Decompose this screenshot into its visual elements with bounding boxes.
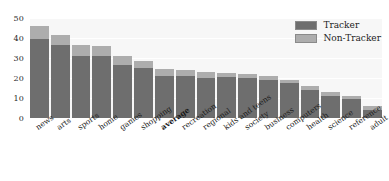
legend-label: Tracker — [323, 20, 359, 30]
bar-segment-non-tracker — [113, 56, 132, 65]
bar-arts[interactable] — [51, 18, 70, 118]
bar-stack — [134, 18, 153, 118]
y-axis-tick-label: 30 — [13, 54, 24, 63]
legend-swatch-icon — [295, 34, 317, 43]
bar-segment-non-tracker — [30, 26, 49, 39]
bar-average[interactable] — [155, 18, 174, 118]
bar-stack — [217, 18, 236, 118]
y-axis-tick-label: 20 — [13, 74, 24, 83]
x-axis-tick: business — [259, 120, 278, 176]
bar-segment-tracker — [30, 39, 49, 118]
bar-segment-non-tracker — [155, 69, 174, 76]
bar-kids-and-teens[interactable] — [217, 18, 236, 118]
x-axis-tick: computers — [280, 120, 299, 176]
bar-games[interactable] — [113, 18, 132, 118]
x-axis-tick: reference — [342, 120, 361, 176]
bar-sports[interactable] — [72, 18, 91, 118]
x-axis-tick: health — [301, 120, 320, 176]
bar-stack — [113, 18, 132, 118]
y-axis-tick-label: 50 — [13, 14, 24, 23]
x-axis-tick: games — [113, 120, 132, 176]
x-axis-tick: recreation — [176, 120, 195, 176]
x-axis-tick: average — [155, 120, 174, 176]
x-axis-tick: regional — [197, 120, 216, 176]
legend-label: Non-Tracker — [323, 33, 381, 43]
bar-shopping[interactable] — [134, 18, 153, 118]
x-axis-tick: adult — [363, 120, 382, 176]
x-axis-tick: kids and teens — [217, 120, 236, 176]
bar-segment-tracker — [72, 56, 91, 118]
bar-stack — [176, 18, 195, 118]
bar-segment-non-tracker — [51, 35, 70, 45]
bar-segment-tracker — [113, 65, 132, 118]
y-axis: 01020304050 — [0, 18, 28, 118]
stacked-bar-chart: 01020304050 newsartssportshomegamesshopp… — [0, 0, 389, 181]
bar-segment-non-tracker — [92, 46, 111, 56]
bar-recreation[interactable] — [176, 18, 195, 118]
x-axis-tick: arts — [51, 120, 70, 176]
bar-stack — [155, 18, 174, 118]
legend-item-non-tracker[interactable]: Non-Tracker — [295, 33, 381, 43]
bar-news[interactable] — [30, 18, 49, 118]
x-axis-tick: science — [322, 120, 341, 176]
x-axis-tick: news — [30, 120, 49, 176]
x-axis-tick: shopping — [134, 120, 153, 176]
legend: TrackerNon-Tracker — [295, 20, 381, 43]
y-axis-tick-label: 40 — [13, 34, 24, 43]
bar-segment-non-tracker — [134, 61, 153, 68]
bar-stack — [30, 18, 49, 118]
bar-segment-tracker — [51, 45, 70, 118]
legend-swatch-icon — [295, 21, 317, 30]
x-axis-tick: society — [238, 120, 257, 176]
bar-stack — [92, 18, 111, 118]
x-axis-labels: newsartssportshomegamesshoppingaveragere… — [30, 120, 382, 178]
y-axis-tick-label: 0 — [19, 114, 24, 123]
bar-segment-non-tracker — [72, 45, 91, 56]
x-axis-tick: sports — [72, 120, 91, 176]
bar-segment-tracker — [92, 56, 111, 118]
bar-stack — [51, 18, 70, 118]
bar-home[interactable] — [92, 18, 111, 118]
x-axis-tick: home — [92, 120, 111, 176]
legend-item-tracker[interactable]: Tracker — [295, 20, 381, 30]
y-axis-tick-label: 10 — [13, 94, 24, 103]
bar-stack — [72, 18, 91, 118]
